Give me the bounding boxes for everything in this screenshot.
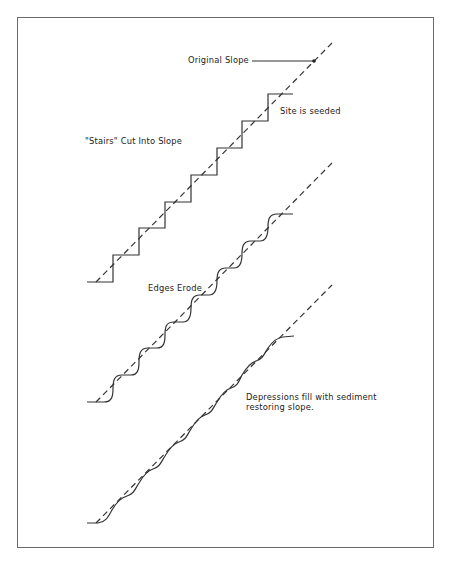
slope-dashed-line-2	[96, 163, 332, 402]
stair-steps	[87, 94, 293, 282]
label-site-seeded: Site is seeded	[280, 106, 341, 116]
slope-stabilization-diagram	[0, 0, 455, 561]
stage-stairs	[87, 43, 332, 282]
eroded-steps-curve	[87, 214, 293, 402]
original-slope-dashed-line	[96, 43, 332, 282]
label-stairs-cut: "Stairs" Cut Into Slope	[85, 136, 182, 146]
restored-slope-curve	[87, 336, 294, 523]
stage-edges-erode	[87, 163, 332, 402]
label-original-slope: Original Slope	[188, 55, 249, 65]
label-edges-erode: Edges Erode	[148, 283, 202, 293]
label-depressions-line1: Depressions fill with sediment	[246, 392, 377, 402]
leader-dot	[312, 59, 316, 63]
label-depressions-line2: restoring slope.	[246, 402, 314, 412]
